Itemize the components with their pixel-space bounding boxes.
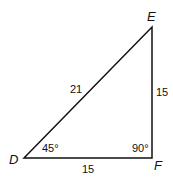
triangle-diagram: D E F 21 15 15 45° 90° bbox=[0, 0, 173, 182]
side-label-ef: 15 bbox=[156, 86, 168, 98]
vertex-label-e: E bbox=[147, 9, 156, 24]
angle-label-d: 45° bbox=[42, 142, 59, 154]
side-label-df: 15 bbox=[82, 163, 94, 175]
triangle-def bbox=[24, 27, 152, 158]
side-label-de: 21 bbox=[70, 83, 82, 95]
angle-label-f: 90° bbox=[132, 142, 149, 154]
vertex-label-d: D bbox=[9, 152, 18, 167]
vertex-label-f: F bbox=[154, 158, 163, 173]
